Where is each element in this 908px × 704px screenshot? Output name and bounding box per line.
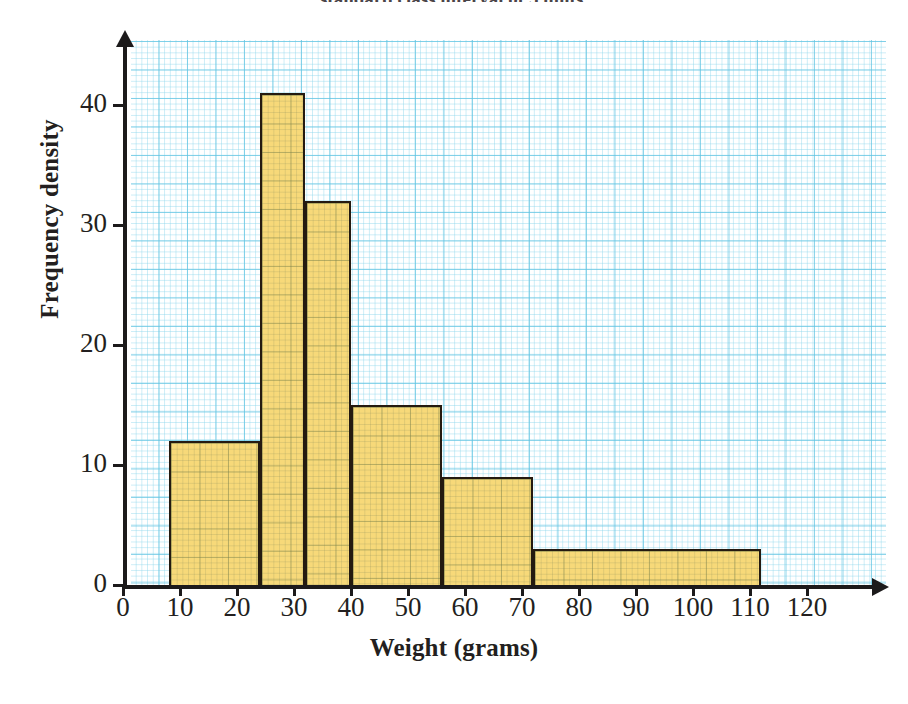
histogram-bar xyxy=(351,405,442,587)
y-axis-tick xyxy=(113,584,124,587)
x-axis-arrow-icon xyxy=(872,578,889,596)
x-axis-tick-label: 100 xyxy=(663,592,723,623)
histogram-bar xyxy=(260,93,306,587)
x-axis-tick-label: 120 xyxy=(777,592,837,623)
y-axis-title: Frequency density xyxy=(36,74,64,364)
x-axis-tick-label: 10 xyxy=(150,592,210,623)
x-axis-tick-label: 70 xyxy=(492,592,552,623)
x-axis-tick-label: 40 xyxy=(321,592,381,623)
y-axis-tick xyxy=(113,104,124,107)
y-axis-tick-label: 0 xyxy=(55,568,107,599)
x-axis-tick-label: 20 xyxy=(207,592,267,623)
x-axis-tick-label: 80 xyxy=(549,592,609,623)
x-axis-tick-label: 50 xyxy=(378,592,438,623)
histogram-bar xyxy=(533,549,761,587)
x-axis-tick-label: 30 xyxy=(264,592,324,623)
y-axis-arrow-icon xyxy=(116,30,134,47)
x-axis-tick-label: 90 xyxy=(606,592,666,623)
top-caption-fragment: standard class interval of 5 units. xyxy=(0,0,908,2)
x-axis-title: Weight (grams) xyxy=(0,634,908,662)
y-axis-line xyxy=(123,44,127,587)
y-axis-tick-label: 10 xyxy=(55,448,107,479)
y-axis-tick xyxy=(113,344,124,347)
histogram-bar xyxy=(305,201,351,587)
y-axis-tick xyxy=(113,224,124,227)
histogram-bar xyxy=(169,441,260,587)
x-axis-tick-label: 60 xyxy=(435,592,495,623)
plot-area xyxy=(131,40,886,585)
y-axis-tick xyxy=(113,464,124,467)
histogram-bar xyxy=(442,477,533,587)
x-axis-tick-label: 110 xyxy=(720,592,780,623)
